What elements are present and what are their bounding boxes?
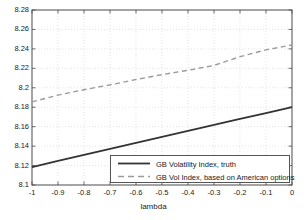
x-tick-label: -0.7 xyxy=(96,189,124,197)
legend-sample-dashed-line-icon xyxy=(116,170,152,183)
y-tick-label: 8.16 xyxy=(2,123,29,131)
x-tick-label: -0.5 xyxy=(148,189,176,197)
y-tick-label: 8.12 xyxy=(2,162,29,170)
x-tick-label: -1 xyxy=(18,189,46,197)
x-tick-label: -0.6 xyxy=(122,189,150,197)
x-tick-label: -0.8 xyxy=(70,189,98,197)
y-tick-label: 8.26 xyxy=(2,25,29,33)
legend-entry-truth: GB Volatility Index, truth xyxy=(111,157,289,170)
legend-sample-solid-line-icon xyxy=(116,157,152,170)
legend-label-truth: GB Volatility Index, truth xyxy=(156,160,236,169)
x-tick-label: -0.4 xyxy=(174,189,202,197)
x-tick-label: 0 xyxy=(278,189,306,197)
legend-label-american: GB Vol Index, based on American options xyxy=(156,173,294,182)
y-tick-label: 8.2 xyxy=(2,84,29,92)
y-tick-label: 8.1 xyxy=(2,181,29,189)
x-tick-label: -0.9 xyxy=(44,189,72,197)
legend: GB Volatility Index, truth GB Vol Index,… xyxy=(110,155,290,183)
x-tick-label: -0.2 xyxy=(226,189,254,197)
y-tick-label: 8.14 xyxy=(2,142,29,150)
plot-area xyxy=(0,0,307,220)
y-tick-label: 8.22 xyxy=(2,64,29,72)
y-tick-label: 8.28 xyxy=(2,6,29,14)
y-tick-label: 8.24 xyxy=(2,45,29,53)
legend-entry-american: GB Vol Index, based on American options xyxy=(111,170,289,183)
x-tick-label: -0.3 xyxy=(200,189,228,197)
figure-canvas: 8.18.128.148.168.188.28.228.248.268.28 -… xyxy=(0,0,307,220)
x-axis-label: lambda xyxy=(0,202,307,211)
x-tick-label: -0.1 xyxy=(252,189,280,197)
y-tick-label: 8.18 xyxy=(2,103,29,111)
